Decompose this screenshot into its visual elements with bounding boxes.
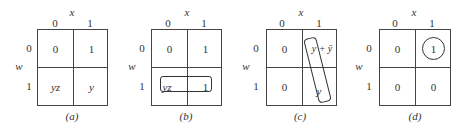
row-label-1: 1 [249,80,263,92]
row-var-label: w [239,60,253,72]
kmap-grid: 0 y + ȳ 0 y [266,29,337,106]
grid-divider [267,67,336,68]
cell-w1-x0: 0 [380,81,415,93]
cell-w1-x1: 0 [416,81,451,93]
col-label-1: 1 [312,17,326,29]
col-var-label: x [65,6,79,18]
col-label-0: 0 [275,17,289,29]
row-var-label: w [352,60,366,72]
caption: (b) [171,110,201,122]
kmap-a: x 0 1 0 w 1 0 1 yz y (a) [0,0,115,127]
caption: (c) [285,110,315,122]
grid-divider [380,67,450,68]
col-var-label: x [294,6,308,18]
row-var-label: w [12,60,26,72]
cell-w0-x0: 0 [380,43,415,55]
cell-w0-x0: 0 [38,43,73,55]
grid-divider [152,67,221,68]
col-label-1: 1 [83,17,97,29]
row-var-label: w [125,60,139,72]
group-circle [422,37,445,60]
kmap-grid: 0 1 0 0 [379,29,451,106]
kmap-grid: 0 1 yz y [37,29,108,106]
col-var-label: x [180,6,194,18]
row-label-0: 0 [22,42,36,54]
row-label-0: 0 [135,42,149,54]
row-label-0: 0 [249,42,263,54]
caption: (d) [400,110,430,122]
row-label-1: 1 [135,80,149,92]
kmap-d: x 0 1 0 w 1 0 1 0 0 (d) [345,0,460,127]
row-label-0: 0 [362,42,376,54]
caption: (a) [57,110,87,122]
cell-w0-x0: 0 [267,43,302,55]
cell-w0-x0: 0 [152,43,187,55]
kmap-c: x 0 1 0 w 1 0 y + ȳ 0 y (c) [230,0,345,127]
cell-w0-x1: 1 [74,43,109,55]
col-label-1: 1 [425,17,439,29]
grid-divider [38,67,107,68]
row-label-1: 1 [362,80,376,92]
col-label-0: 0 [48,17,62,29]
col-var-label: x [407,6,421,18]
kmap-grid: 0 1 yz 1 [151,29,222,106]
col-label-0: 0 [388,17,402,29]
row-label-1: 1 [22,80,36,92]
cell-w1-x0: 0 [267,81,302,93]
cell-w1-x1: y [74,81,109,93]
col-label-0: 0 [161,17,175,29]
cell-w1-x0: yz [38,81,73,93]
group-loop [160,76,212,92]
col-label-1: 1 [197,17,211,29]
kmap-b: x 0 1 0 w 1 0 1 yz 1 (b) [115,0,230,127]
cell-w0-x1: 1 [188,43,223,55]
